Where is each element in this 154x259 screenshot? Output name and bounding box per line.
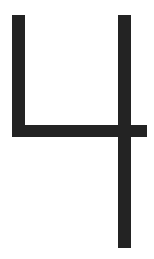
left-vertical-stroke	[12, 15, 25, 137]
glyph-character: 4	[0, 0, 1, 1]
digit-four-glyph: 4	[0, 0, 154, 259]
crossbar-stroke	[12, 125, 147, 137]
